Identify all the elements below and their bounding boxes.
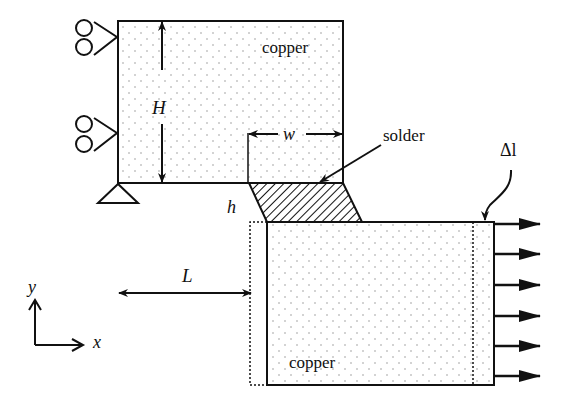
top-copper-label: copper <box>262 38 309 57</box>
elongation-leader-arrow <box>485 170 511 220</box>
length-label: L <box>181 265 193 286</box>
roller-support-middle <box>76 116 117 152</box>
solder-label: solder <box>383 126 425 145</box>
tension-load-arrows <box>494 224 540 376</box>
coordinate-axes <box>29 300 83 351</box>
bottom-copper-label: copper <box>289 353 336 372</box>
elongation-label: Δl <box>500 140 517 160</box>
roller-support-top <box>76 20 117 55</box>
solder-joint <box>249 183 362 222</box>
x-axis-label: x <box>92 332 101 352</box>
width-label: w <box>283 124 295 144</box>
diagram-canvas: copper H w solder h copp <box>0 0 565 402</box>
height-label: H <box>151 97 167 118</box>
solder-height-label: h <box>227 197 236 217</box>
y-axis-label: y <box>26 277 36 297</box>
pin-support <box>98 184 138 203</box>
